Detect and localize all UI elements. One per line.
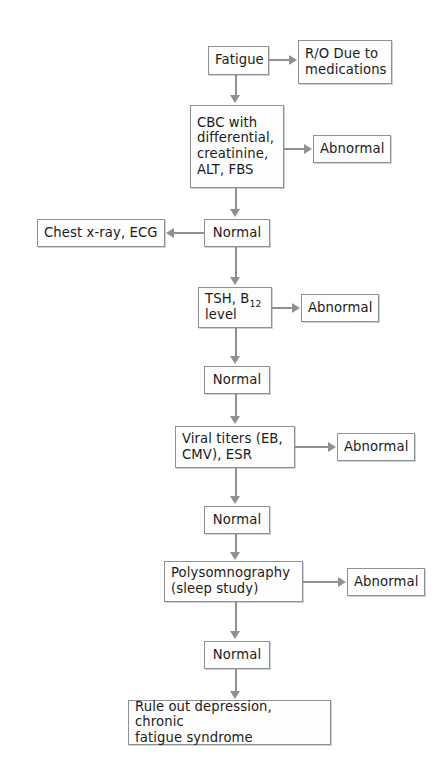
edge-cbc-to-normal1-arrowhead <box>230 209 240 217</box>
node-viral-titers[interactable]: Viral titers (EB, CMV), ESR <box>175 426 295 468</box>
edge-cbc-to-abnormal-line <box>284 148 306 150</box>
node-tsh-b12-prefix: TSH, B <box>205 291 249 306</box>
edge-cbc-to-abnormal-arrowhead <box>304 144 312 154</box>
node-tsh-b12[interactable]: TSH, B12 level <box>198 287 272 328</box>
node-polysomnography[interactable]: Polysomnography (sleep study) <box>164 561 303 602</box>
edge-tsh-to-abnormal-line <box>272 307 294 309</box>
node-tsh-b12-subscript: 12 <box>249 298 261 309</box>
node-abnormal-polysomnography[interactable]: Abnormal <box>347 568 425 596</box>
edge-normal2-to-viral-line <box>235 394 237 418</box>
node-polysomnography-label: Polysomnography (sleep study) <box>171 565 296 596</box>
edge-polysomnography-to-normal4-arrowhead <box>230 631 240 639</box>
edge-fatigue-to-ro-arrowhead <box>289 55 297 65</box>
edge-tsh-to-abnormal-arrowhead <box>292 303 300 313</box>
edge-viral-to-normal3-line <box>235 468 237 498</box>
edge-normal2-to-viral-arrowhead <box>230 416 240 424</box>
edge-fatigue-to-cbc-line <box>235 75 237 97</box>
node-rule-out-final-label: Rule out depression, chronic fatigue syn… <box>135 699 324 746</box>
edge-polysomnography-to-abnormal-arrowhead <box>338 577 346 587</box>
edge-tsh-to-normal2-arrowhead <box>230 356 240 364</box>
node-chest-xray-ecg-label: Chest x-ray, ECG <box>44 225 158 241</box>
edge-fatigue-to-cbc-arrowhead <box>230 95 240 103</box>
node-fatigue[interactable]: Fatigue <box>208 46 269 75</box>
node-normal-4[interactable]: Normal <box>204 641 270 669</box>
edge-normal4-to-final-line <box>235 669 237 693</box>
node-normal-1[interactable]: Normal <box>204 219 270 247</box>
node-ro-medications-label: R/O Due to medications <box>305 46 385 77</box>
edge-cbc-to-normal1-line <box>235 188 237 211</box>
edge-viral-to-normal3-arrowhead <box>230 496 240 504</box>
node-abnormal-tsh[interactable]: Abnormal <box>301 294 379 322</box>
node-abnormal-polysomnography-label: Abnormal <box>354 574 418 590</box>
edge-normal1-to-tsh-arrowhead <box>230 277 240 285</box>
node-rule-out-final[interactable]: Rule out depression, chronic fatigue syn… <box>128 700 331 745</box>
node-viral-titers-label: Viral titers (EB, CMV), ESR <box>182 431 288 462</box>
edge-polysomnography-to-abnormal-line <box>303 581 340 583</box>
node-normal-4-label: Normal <box>211 647 263 663</box>
node-abnormal-cbc[interactable]: Abnormal <box>313 135 391 163</box>
edge-normal1-to-chest-line <box>174 232 205 234</box>
node-normal-2-label: Normal <box>211 372 263 388</box>
node-fatigue-label: Fatigue <box>215 52 262 68</box>
edge-normal1-to-tsh-line <box>235 247 237 278</box>
node-cbc-panel[interactable]: CBC with differential, creatinine, ALT, … <box>190 105 284 188</box>
edge-polysomnography-to-normal4-line <box>235 602 237 633</box>
node-abnormal-viral[interactable]: Abnormal <box>337 433 415 461</box>
node-abnormal-cbc-label: Abnormal <box>320 141 384 157</box>
node-tsh-b12-label: TSH, B12 level <box>205 291 265 322</box>
edge-viral-to-abnormal-arrowhead <box>328 442 336 452</box>
node-normal-3[interactable]: Normal <box>204 506 270 534</box>
flowchart-canvas: Fatigue R/O Due to medications CBC with … <box>0 0 445 771</box>
node-chest-xray-ecg[interactable]: Chest x-ray, ECG <box>37 219 165 247</box>
node-cbc-panel-label: CBC with differential, creatinine, ALT, … <box>197 115 277 177</box>
edge-viral-to-abnormal-line <box>295 446 330 448</box>
node-normal-3-label: Normal <box>211 512 263 528</box>
edge-fatigue-to-ro-line <box>269 59 291 61</box>
node-tsh-b12-suffix: level <box>205 307 237 322</box>
edge-normal1-to-chest-arrowhead <box>166 228 174 238</box>
edge-tsh-to-normal2-line <box>235 328 237 358</box>
node-normal-2[interactable]: Normal <box>204 366 270 394</box>
node-abnormal-viral-label: Abnormal <box>344 439 408 455</box>
node-normal-1-label: Normal <box>211 225 263 241</box>
node-ro-medications[interactable]: R/O Due to medications <box>298 40 392 84</box>
edge-normal3-to-polysomnography-arrowhead <box>230 552 240 560</box>
node-abnormal-tsh-label: Abnormal <box>308 300 372 316</box>
